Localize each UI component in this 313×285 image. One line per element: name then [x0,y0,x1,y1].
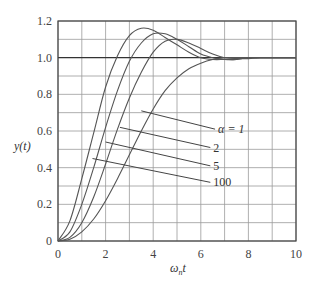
curve-label: α = 1 [218,122,244,136]
y-tick-label: 1.0 [37,51,52,65]
y-tick-label: 0 [46,234,52,248]
x-tick-label: 2 [103,247,109,261]
x-tick-label: 4 [150,247,156,261]
y-tick-label: 1.2 [37,14,52,28]
x-tick-label: 0 [55,247,61,261]
y-tick-label: 0.4 [37,161,52,175]
curve-labels: α = 125100 [93,111,245,189]
y-tick-label: 0.8 [37,87,52,101]
y-tick-label: 0.2 [37,197,52,211]
x-tick-label: 8 [245,247,251,261]
label-leader-line [141,111,215,129]
y-axis-ticks: 00.20.40.60.81.01.2 [37,14,52,248]
y-axis-label: y(t) [13,139,31,153]
step-response-chart: α = 125100 0246810 00.20.40.60.81.01.2 y… [0,0,313,285]
label-leader-line [106,142,211,166]
x-tick-label: 6 [198,247,204,261]
curve-label: 5 [213,159,219,173]
curve-label: 2 [213,141,219,155]
y-tick-label: 0.6 [37,124,52,138]
x-axis-label: ωnt [170,261,186,277]
x-tick-label: 10 [290,247,302,261]
x-axis-ticks: 0246810 [55,247,302,261]
label-leader-line [120,127,210,147]
curve-label: 100 [213,175,231,189]
